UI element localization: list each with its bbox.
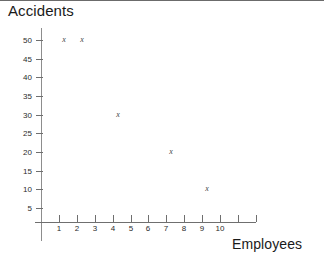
y-axis-tick: [36, 171, 43, 172]
y-axis-tick: [36, 59, 43, 60]
data-point-marker: x: [114, 111, 122, 119]
y-axis-tick: [36, 208, 43, 209]
x-axis-tick: [95, 215, 96, 222]
y-axis-tick-label: 30: [10, 111, 32, 120]
x-axis-tick: [59, 215, 60, 222]
x-axis-tick: [166, 215, 167, 222]
y-axis-tick-label: 50: [10, 36, 32, 45]
x-axis-tick: [220, 215, 221, 222]
y-axis-tick: [36, 77, 43, 78]
top-border-line: [0, 0, 324, 1]
x-axis-tick: [256, 215, 257, 222]
x-axis-tick-label: 10: [213, 224, 227, 233]
x-axis-tick-label: 1: [52, 224, 66, 233]
y-axis-tick: [36, 115, 43, 116]
data-point-marker: x: [203, 185, 211, 193]
y-axis-tick-label: 15: [10, 167, 32, 176]
x-axis-tick: [77, 215, 78, 222]
y-axis-tick-label: 20: [10, 148, 32, 157]
y-axis-tick-label: 40: [10, 73, 32, 82]
y-axis-tick: [36, 96, 43, 97]
y-axis-tick-label: 25: [10, 129, 32, 138]
y-axis-tick: [36, 152, 43, 153]
x-axis-tick-label: 8: [177, 224, 191, 233]
x-axis-tick-label: 4: [106, 224, 120, 233]
data-point-marker: x: [78, 36, 86, 44]
x-axis-title: Employees: [232, 236, 302, 252]
x-axis-tick: [238, 215, 239, 222]
y-axis-tick: [36, 40, 43, 41]
y-axis-tick-label: 5: [10, 204, 32, 213]
x-axis-tick-label: 9: [195, 224, 209, 233]
x-axis-tick-label: 6: [141, 224, 155, 233]
x-axis-tick-label: 2: [70, 224, 84, 233]
x-axis-tick: [113, 215, 114, 222]
x-axis-tick-label: 3: [88, 224, 102, 233]
x-axis-tick: [131, 215, 132, 222]
y-axis-tick-label: 35: [10, 92, 32, 101]
x-axis-tick: [184, 215, 185, 222]
chart-title: Accidents: [8, 2, 74, 19]
x-axis-tick-label: 7: [159, 224, 173, 233]
scatter-chart: Accidents 5101520253035404550 1234567891…: [0, 0, 324, 261]
y-axis-tick-label: 45: [10, 55, 32, 64]
y-axis-tick-label: 10: [10, 185, 32, 194]
data-point-marker: x: [60, 36, 68, 44]
x-axis-tick: [202, 215, 203, 222]
y-axis-tick: [36, 133, 43, 134]
x-axis-line: [35, 222, 256, 223]
data-point-marker: x: [167, 148, 175, 156]
x-axis-tick-label: 5: [124, 224, 138, 233]
y-axis-tick: [36, 189, 43, 190]
x-axis-tick: [148, 215, 149, 222]
